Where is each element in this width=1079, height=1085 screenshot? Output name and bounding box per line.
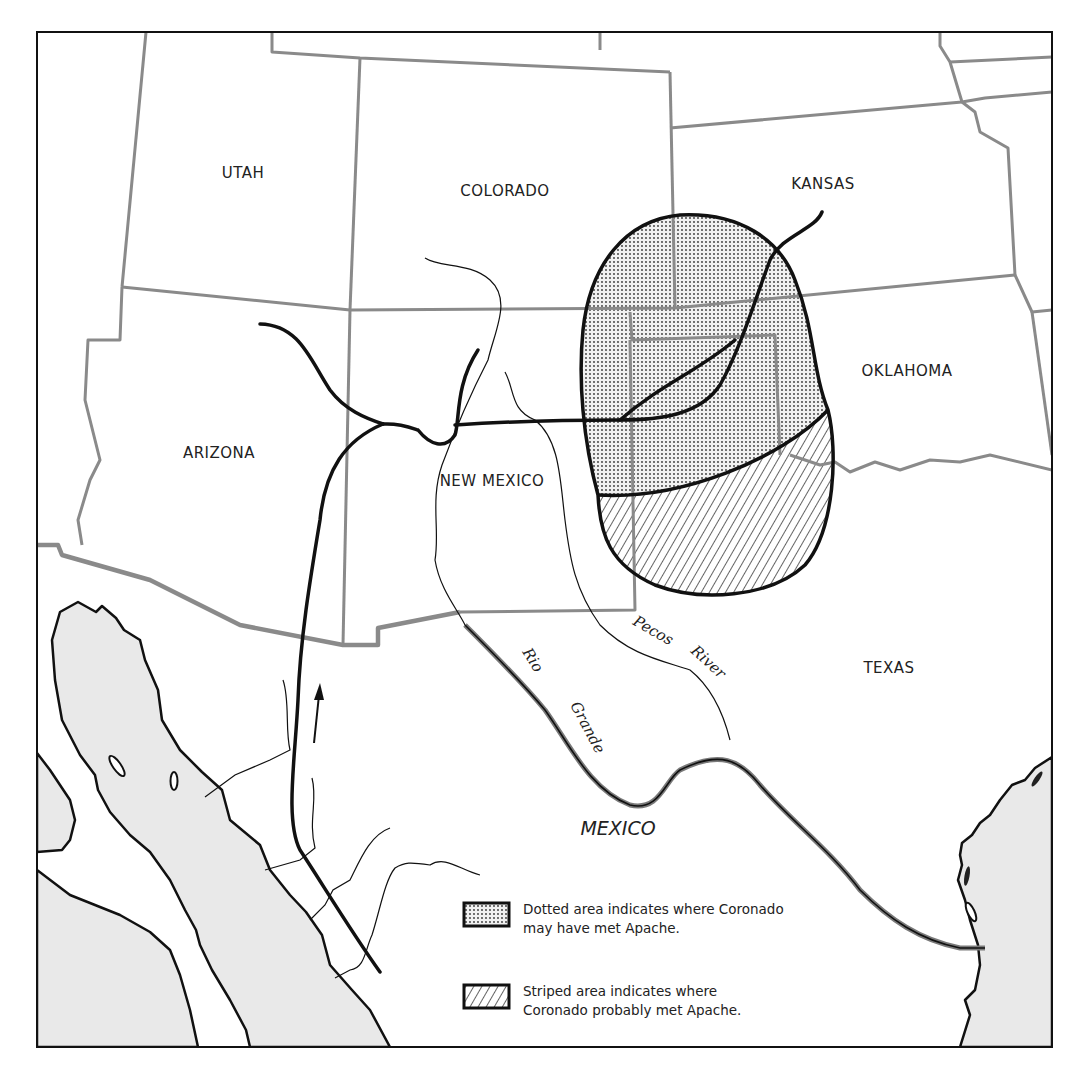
island [171, 772, 178, 790]
dotted-swatch [464, 903, 509, 926]
legend-item-striped: Striped area indicates where Coronado pr… [464, 983, 741, 1018]
state-label-oklahoma: OKLAHOMA [862, 362, 953, 380]
pacific-ocean [37, 753, 75, 852]
mexico-tributary [205, 680, 290, 797]
country-label-mexico: MEXICO [580, 817, 655, 839]
legend: Dotted area indicates where Coronado may… [464, 901, 784, 1018]
arrow-up-icon [314, 683, 324, 743]
legend-item-dotted: Dotted area indicates where Coronado may… [464, 901, 784, 936]
state-label-kansas: KANSAS [791, 175, 855, 193]
state-borders [78, 32, 1052, 645]
state-label-new-mexico: NEW MEXICO [440, 472, 545, 490]
legend-striped-line1: Striped area indicates where [523, 983, 717, 999]
legend-striped-line2: Coronado probably met Apache. [523, 1002, 741, 1018]
river-label-rio: Rio [518, 644, 547, 676]
rio-grande-upper [425, 258, 501, 625]
mexico-tributary [310, 828, 390, 920]
gulf-of-mexico [958, 757, 1052, 1047]
apache-meeting-areas [581, 215, 833, 595]
river-label-pecos: Pecos [629, 611, 677, 649]
state-label-texas: TEXAS [862, 659, 914, 677]
legend-dotted-line1: Dotted area indicates where Coronado [523, 901, 784, 917]
mexico-tributary [265, 778, 315, 870]
legend-dotted-line2: may have met Apache. [523, 920, 680, 936]
river-labels: Rio Grande Pecos River [518, 611, 730, 756]
pacific-ocean-south [37, 870, 198, 1047]
mexico-tributary [335, 862, 480, 978]
coronado-route-map: UTAH COLORADO KANSAS OKLAHOMA ARIZONA NE… [0, 0, 1079, 1085]
state-labels: UTAH COLORADO KANSAS OKLAHOMA ARIZONA NE… [183, 164, 953, 839]
state-label-utah: UTAH [222, 164, 265, 182]
striped-swatch [464, 985, 509, 1008]
state-label-colorado: COLORADO [460, 182, 549, 200]
river-label-river: River [687, 641, 731, 683]
state-label-arizona: ARIZONA [183, 444, 255, 462]
